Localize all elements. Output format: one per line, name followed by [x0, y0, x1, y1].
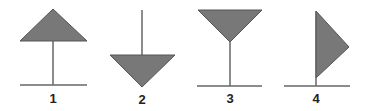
figure-1: 1: [20, 9, 87, 106]
figure-label-4: 4: [312, 91, 320, 106]
figure-3: 3: [197, 10, 262, 106]
figure-4: 4: [284, 11, 350, 106]
symbol-diagram: 1 2 3 4: [0, 0, 369, 111]
figure-label-2: 2: [138, 92, 145, 107]
figure-label-1: 1: [49, 91, 56, 106]
up-triangle-icon: [20, 9, 87, 41]
down-triangle-icon: [110, 55, 175, 87]
inverted-triangle-icon: [198, 10, 262, 42]
figure-2: 2: [110, 10, 175, 107]
flag-icon: [316, 11, 349, 78]
figure-label-3: 3: [226, 91, 233, 106]
